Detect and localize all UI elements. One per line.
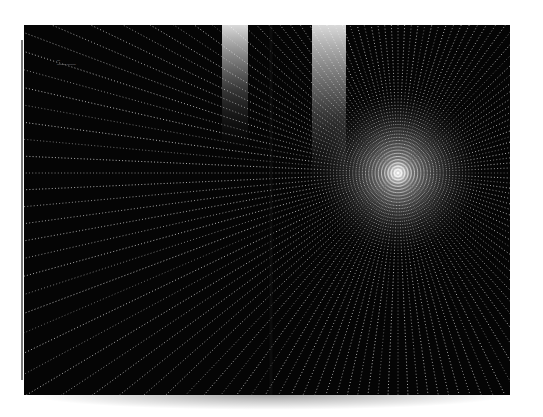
magazine-spread: — ——— ———	[24, 25, 510, 395]
page-edge	[21, 40, 23, 380]
caption-text: — ——— ———	[57, 58, 76, 66]
starburst-artwork	[24, 25, 510, 395]
burst-glow	[308, 83, 488, 263]
light-beam	[222, 25, 248, 155]
caption-line: ——— ———	[57, 62, 76, 66]
spine-fold	[268, 25, 274, 395]
